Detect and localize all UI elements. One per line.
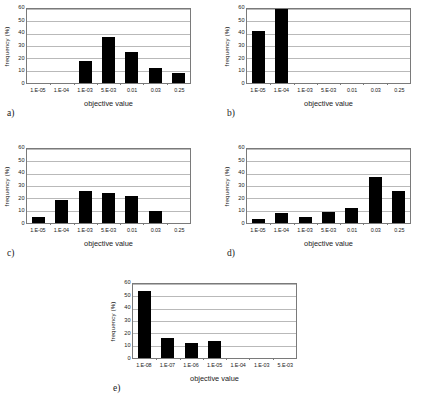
y-tick-label: 10: [238, 69, 244, 75]
x-tick-label: 1.E-05: [26, 227, 50, 233]
plot-area-b: [246, 8, 411, 84]
x-tick-mark: [74, 223, 75, 225]
x-tick-label: 1.E-07: [156, 362, 180, 368]
bar-series: [133, 284, 296, 358]
y-axis-title-c: frequency (%): [0, 148, 13, 224]
x-tick-mark: [317, 83, 318, 85]
bar-slot: [167, 9, 190, 83]
bar: [208, 341, 221, 358]
bar: [125, 196, 138, 223]
x-axis-ticks-d: 1.E-051.E-041.E-035.E-030.010.030.25: [246, 227, 411, 233]
bar-slot: [120, 149, 143, 223]
bar-slot: [120, 9, 143, 83]
y-axis-title-a: frequency (%): [0, 8, 13, 84]
bar-series: [27, 149, 190, 223]
bar-slot: [27, 9, 50, 83]
bar: [185, 343, 198, 358]
x-tick-label: 1.E-03: [293, 227, 317, 233]
x-tick-mark: [97, 223, 98, 225]
bar-slot: [74, 9, 97, 83]
x-tick-label: 1.E-05: [246, 87, 270, 93]
x-tick-mark: [120, 83, 121, 85]
y-tick-label: 60: [124, 280, 130, 286]
y-tick-label: 0: [127, 356, 130, 362]
bar-series: [247, 149, 410, 223]
x-tick-mark: [387, 223, 388, 225]
panel-label-e: e): [113, 383, 120, 393]
bar-slot: [50, 9, 73, 83]
y-tick-label: 40: [18, 31, 24, 37]
bar: [252, 219, 265, 223]
chart-row-a: frequency (%) 0102030405060: [0, 8, 191, 84]
y-tick-label: 30: [238, 183, 244, 189]
x-tick-mark: [203, 358, 204, 360]
bar: [125, 52, 138, 83]
x-tick-label: 5.E-03: [317, 87, 341, 93]
x-tick-mark: [74, 83, 75, 85]
bar: [299, 217, 312, 223]
y-tick-label: 50: [238, 158, 244, 164]
bar-slot: [97, 9, 120, 83]
x-tick-label: 1.E-05: [203, 362, 227, 368]
bar-slot: [294, 9, 317, 83]
y-tick-label: 60: [18, 145, 24, 151]
bar-slot: [27, 149, 50, 223]
x-tick-label: 1.E-03: [73, 227, 97, 233]
x-tick-label: 1.E-04: [270, 227, 294, 233]
bar-slot: [247, 149, 270, 223]
x-tick-mark: [50, 223, 51, 225]
bar: [252, 31, 265, 83]
x-tick-label: 1.E-03: [250, 362, 274, 368]
bar: [275, 9, 288, 83]
chart-panel-a: frequency (%) 0102030405060 1.E-051.E-04…: [0, 8, 191, 108]
x-tick-label: 1.E-08: [132, 362, 156, 368]
bar-slot: [270, 9, 293, 83]
bar-slot: [270, 149, 293, 223]
x-tick-label: 0.03: [144, 227, 168, 233]
y-axis-ticks-c: 0102030405060: [13, 148, 26, 224]
x-axis-title-d: objective value: [246, 239, 411, 248]
plot-area-c: [26, 148, 191, 224]
y-tick-label: 30: [18, 43, 24, 49]
y-tick-label: 50: [18, 158, 24, 164]
y-axis-ticks-b: 0102030405060: [233, 8, 246, 84]
x-tick-label: 0.03: [364, 87, 388, 93]
x-axis-title-b: objective value: [246, 99, 411, 108]
y-tick-label: 10: [18, 209, 24, 215]
bar-slot: [247, 9, 270, 83]
x-tick-label: 1.E-06: [179, 362, 203, 368]
bar-slot: [133, 284, 156, 358]
panel-label-b: b): [227, 108, 235, 118]
x-axis-title-e: objective value: [132, 374, 297, 383]
x-tick-label: 1.E-04: [226, 362, 250, 368]
x-tick-label: 0.01: [340, 227, 364, 233]
x-tick-label: 0.25: [167, 227, 191, 233]
y-tick-label: 0: [21, 81, 24, 87]
y-tick-label: 40: [18, 171, 24, 177]
x-tick-mark: [167, 83, 168, 85]
bar-slot: [340, 9, 363, 83]
figure-panel-grid: frequency (%) 0102030405060 1.E-051.E-04…: [0, 0, 441, 403]
bar: [79, 61, 92, 83]
y-axis-ticks-d: 0102030405060: [233, 148, 246, 224]
y-tick-label: 20: [238, 56, 244, 62]
panel-label-c: c): [7, 248, 14, 258]
x-tick-label: 1.E-05: [26, 87, 50, 93]
bar-slot: [363, 149, 386, 223]
bar-slot: [226, 284, 249, 358]
bar: [392, 191, 405, 223]
x-axis-ticks-e: 1.E-081.E-071.E-061.E-051.E-041.E-035.E-…: [132, 362, 297, 368]
x-tick-label: 5.E-03: [97, 227, 121, 233]
chart-row-d: frequency (%) 0102030405060: [220, 148, 411, 224]
y-tick-label: 20: [18, 56, 24, 62]
chart-row-c: frequency (%) 0102030405060: [0, 148, 191, 224]
bar: [322, 212, 335, 223]
bar-slot: [97, 149, 120, 223]
bar-slot: [317, 149, 340, 223]
bar: [275, 213, 288, 223]
x-tick-mark: [143, 83, 144, 85]
bar-slot: [203, 284, 226, 358]
y-axis-ticks-a: 0102030405060: [13, 8, 26, 84]
y-axis-title-e: frequency (%): [106, 283, 119, 359]
x-tick-label: 0.25: [387, 227, 411, 233]
